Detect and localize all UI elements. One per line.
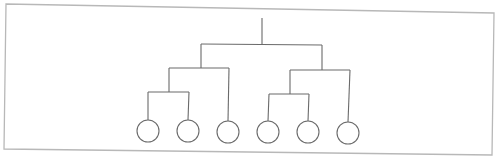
leaf-5-node [297, 121, 319, 143]
left-leaf-drop [188, 92, 189, 120]
diagram-frame [4, 4, 494, 155]
left-direct-leaf-drop [228, 68, 229, 121]
leaf-1-node [137, 120, 159, 142]
leaf-4-node [257, 121, 279, 143]
right-direct-leaf-drop [348, 70, 350, 122]
right-leaf-drop [308, 94, 309, 121]
root-bar [201, 44, 322, 45]
leaf-3-node [217, 121, 239, 143]
tree-leaves [137, 120, 359, 144]
leaf-2-node [177, 120, 199, 142]
right-leaf-drop [268, 94, 269, 121]
tree-edges [148, 18, 350, 122]
leaf-6-node [337, 122, 359, 144]
tree-diagram [0, 0, 501, 161]
